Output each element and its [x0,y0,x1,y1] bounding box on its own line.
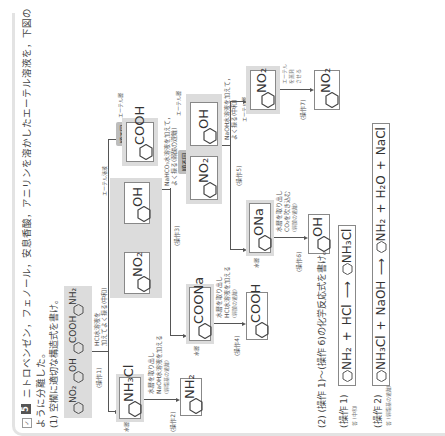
benzene-ring-icon [73,402,84,414]
op5-left-drop [230,249,244,250]
op6-desc2: CO₂を吹き込む [284,191,290,232]
water-layer-label-3: 水層 [252,258,259,268]
op7-desc2: を蒸発 [289,69,294,84]
phenol-answer-pair: OH [196,109,217,144]
sodium-benzoate-structure: COONa [191,277,212,339]
op4-line [214,323,242,324]
op2-line [144,399,176,400]
benzene-ring-icon [137,276,151,292]
benzene-ring-icon [139,144,153,160]
nitrobenzene-answer-3: NO₂ [254,68,275,108]
benzene-ring-icon [376,370,387,382]
nitrobenzene-answer-2: NO₂ [196,158,217,198]
op1-branch-line [108,140,109,412]
eq1-label: (操作 1) [340,394,349,428]
op4-desc3: (弱酸の遊離) [232,289,237,318]
problem-number-badge: 5 [21,404,31,414]
question-1: (1) 空欄に適切な構造式を書け。 [50,295,59,428]
op6-label: (操作6) [296,252,302,273]
op3-stem [162,189,170,190]
benzene-ring-icon [203,182,217,198]
op6-desc3: (弱酸の遊離) [292,203,297,232]
op6-desc1: 水層を取り出し [276,190,282,232]
intro-line2: ように分離した。 [36,348,46,428]
question-2: (2) (操作 1)〜(操作 6)の化学反応式を書け。 [318,246,327,428]
water-layer-label: 水層 [122,422,129,432]
benzene-ring-icon [325,92,339,108]
op7-desc1: エーテル [282,64,287,84]
op1-label: (操作1) [96,368,102,389]
phenol-answer-1: OH [130,187,151,222]
check-box-icon[interactable]: ✓ [22,418,32,428]
op1-desc2: 加えてよく振る(中和) [101,287,107,346]
nitrobenzene-structure: NO₂ [68,386,84,414]
benzene-ring-icon [376,241,387,253]
intro-line1: ニトロベンゼン，フェノール，安息香酸，アニリンを溶かしたエーテル溶液を，下図の [22,8,32,398]
op5-desc2: よく振る(中和) [231,99,237,140]
benzene-ring-icon [342,370,353,382]
benzoic-acid-answer-2: COOH [248,284,269,338]
ether-layer-label-1: エーテル層 [116,93,123,118]
ether-solution-label: エーテル溶液 [100,166,107,196]
benzene-ring-icon [73,304,84,316]
benzoic-acid-structure: COOH [68,316,84,354]
ether-layer-label-2: エーテル層 [174,91,181,116]
op2-label: (操作2) [170,412,176,433]
benzene-ring-icon [198,323,212,339]
benzoic-acid-answer-1: COOH [132,106,153,160]
eq1-mark: 答 (中和) [352,406,357,427]
op7-label: (操作7) [300,100,306,121]
sodium-phenoxide-structure: ONa [251,208,272,251]
op4-desc1: 水層を取り出し [216,276,222,318]
benzene-ring-icon [73,371,84,383]
phenol-structure: OH [68,358,84,383]
op3-label: (操作3) [174,226,180,247]
op6-line [274,237,304,238]
op4-label: (操作4) [234,336,240,357]
nitrobenzene-answer-1: NO₂ [130,252,151,292]
op7-line [280,89,310,90]
aniline-structure: NH₂ [68,288,84,316]
benzene-ring-icon [255,322,269,338]
op1-right-drop [108,139,116,140]
op2-desc3: (弱塩基の遊離) [164,360,169,394]
anilinium-chloride-structure: NH₃Cl [121,365,142,417]
benzene-ring-icon [128,401,142,417]
benzene-ring-icon [258,235,272,251]
op1-stem [92,351,108,352]
op5-stem [222,145,230,146]
op4-desc2: HCl水溶液を加える [224,266,230,318]
equation-2-answer[interactable]: NH₃Cl + NaOH ⟶ NH₂ + H₂O + NaCl [372,123,390,386]
benzene-ring-icon [203,128,217,144]
op2-desc2: NaOH水溶液を加える [156,335,162,394]
op3-left-drop [170,335,184,336]
benzene-ring-icon [261,92,275,108]
benzene-ring-icon [189,398,203,414]
nitrobenzene-final: NO₂ [318,68,339,108]
benzene-ring-icon [137,206,151,222]
water-layer-label-2: 水層 [192,346,199,356]
op5-label: (操作5) [236,166,242,187]
op3-desc2: よく振る(弱酸の遊離) [171,127,177,186]
eq2-label: (操作 2) [374,394,383,428]
op2-desc1: 水層を取り出し [148,352,154,394]
aniline-answer-structure: NH₂ [182,374,203,414]
op7-desc3: させる [296,69,301,84]
equation-1-answer[interactable]: NH₂ + HCl ⟶ NH₃Cl [338,225,356,386]
benzene-ring-icon [342,263,353,275]
op3-branch-line [170,188,171,336]
eq2-mark: 答 (弱塩基の遊離) [386,386,391,427]
benzene-ring-icon [73,342,84,354]
